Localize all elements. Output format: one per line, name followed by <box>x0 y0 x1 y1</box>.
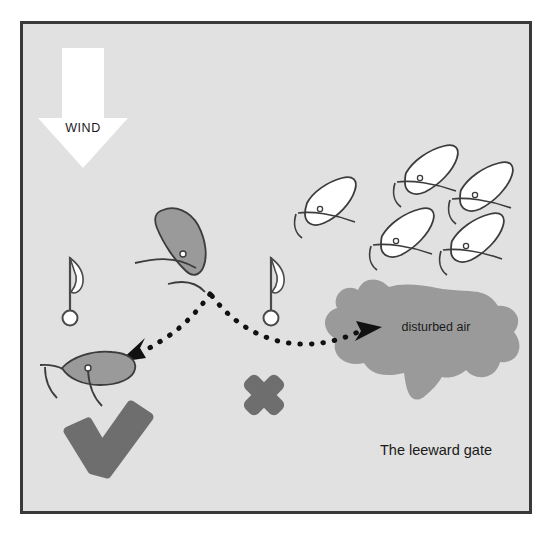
chosen-boat-mast <box>85 365 91 371</box>
left-mark-buoy <box>63 311 78 326</box>
fleet-boat-2-mast <box>417 175 422 180</box>
right-mark-buoy <box>264 311 279 326</box>
fleet-boat-4-mast <box>393 238 398 243</box>
diagram-canvas: WIND disturbed air <box>0 0 559 540</box>
wind-label: WIND <box>65 121 101 135</box>
approaching-boat-mast <box>180 251 186 257</box>
disturbed-air-label: disturbed air <box>402 320 471 334</box>
fleet-boat-5-mast <box>463 243 468 248</box>
fleet-boat-1-mast <box>317 206 322 211</box>
fleet-boat-3-mast <box>472 192 477 197</box>
leeward-gate-caption: The leeward gate <box>380 442 492 458</box>
leeward-gate-figure: WIND disturbed air <box>0 0 559 540</box>
